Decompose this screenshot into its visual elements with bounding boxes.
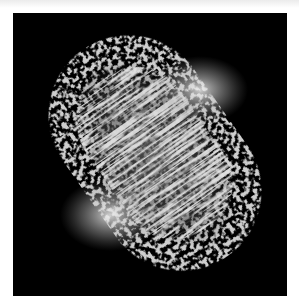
- micrograph-panel: Grayscale micrograph of a cell in divisi…: [13, 13, 287, 296]
- upper-pole-highlight: [152, 56, 248, 124]
- top-edge-fringe: [0, 0, 299, 8]
- cell-image: [13, 13, 287, 296]
- lower-pole-highlight: [60, 179, 160, 251]
